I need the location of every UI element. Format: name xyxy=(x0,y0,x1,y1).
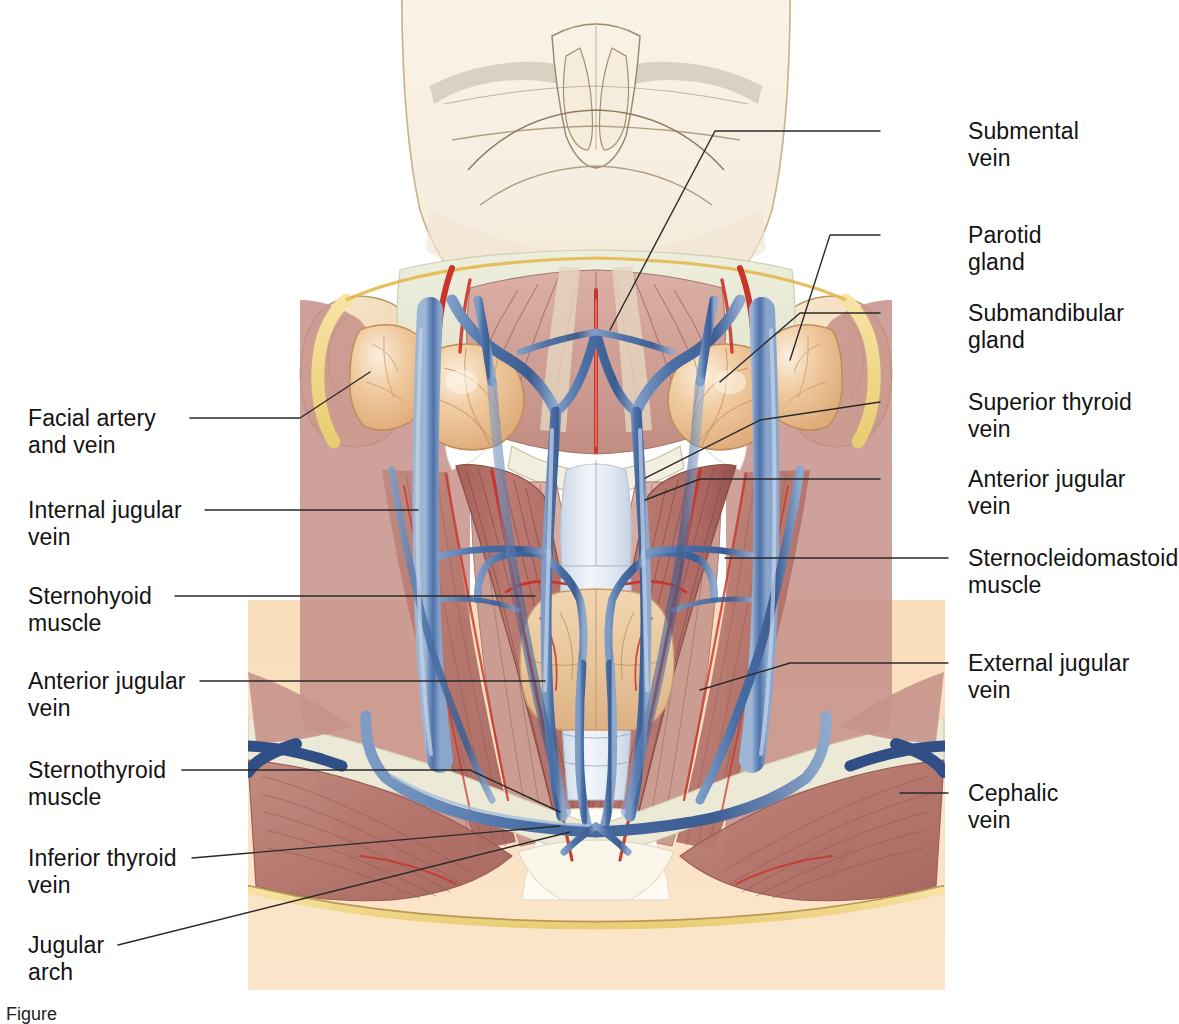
label-superior-thyroid-vein: Superior thyroid vein xyxy=(968,389,1132,443)
label-submandibular-gland: Submandibular gland xyxy=(968,300,1124,354)
label-external-jugular-vein: External jugular vein xyxy=(968,650,1129,704)
figure-caption: Figure xyxy=(6,1004,57,1024)
label-cephalic-vein: Cephalic vein xyxy=(968,780,1058,834)
label-internal-jugular-vein: Internal jugular vein xyxy=(28,497,182,551)
label-parotid-gland: Parotid gland xyxy=(968,222,1042,276)
label-submental-vein: Submental vein xyxy=(968,118,1079,172)
internal-jugular-vein-left xyxy=(426,310,441,760)
label-jugular-arch: Jugular arch xyxy=(28,932,104,986)
label-anterior-jugular-vein-l: Anterior jugular vein xyxy=(28,668,186,722)
internal-jugular-vein-right xyxy=(752,310,767,760)
label-facial-artery-and-vein: Facial artery and vein xyxy=(28,405,156,459)
label-sternothyroid-muscle: Sternothyroid muscle xyxy=(28,757,166,811)
anatomy-figure: Facial artery and veinInternal jugular v… xyxy=(0,0,1179,1024)
label-sternohyoid-muscle: Sternohyoid muscle xyxy=(28,583,152,637)
label-sternocleidomastoid-muscle: Sternocleidomastoid muscle xyxy=(968,545,1178,599)
label-inferior-thyroid-vein: Inferior thyroid vein xyxy=(28,845,177,899)
label-anterior-jugular-vein-r: Anterior jugular vein xyxy=(968,466,1126,520)
